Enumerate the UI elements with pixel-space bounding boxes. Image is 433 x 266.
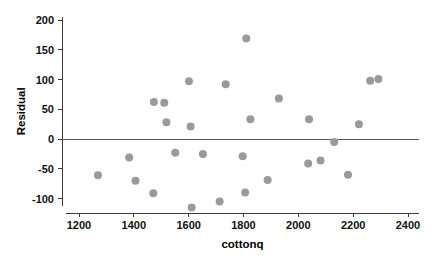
x-tick-label: 2000 (286, 219, 310, 231)
scatter-point (242, 34, 250, 42)
scatter-point (187, 123, 195, 131)
scatter-point (216, 197, 224, 205)
y-tick-label: 200 (36, 14, 54, 26)
scatter-point (366, 77, 374, 85)
scatter-point (344, 171, 352, 179)
scatter-point (246, 115, 254, 123)
scatter-point (264, 176, 272, 184)
scatter-point (188, 203, 196, 211)
scatter-point (149, 189, 157, 197)
y-tick-label: 50 (42, 103, 54, 115)
scatter-point (162, 118, 170, 126)
scatter-point (317, 156, 325, 164)
y-tick-label: 100 (36, 74, 54, 86)
scatter-point (241, 189, 249, 197)
y-axis: 200150100500-50-100 (32, 14, 62, 206)
scatter-point (305, 115, 313, 123)
scatter-point (199, 150, 207, 158)
scatter-point (355, 120, 363, 128)
scatter-point (171, 149, 179, 157)
x-tick-label: 1400 (122, 219, 146, 231)
scatter-point (222, 80, 230, 88)
x-tick-label: 1200 (67, 219, 91, 231)
scatter-point (125, 153, 133, 161)
scatter-point (185, 77, 193, 85)
scatter-point (239, 152, 247, 160)
x-tick-label: 2200 (341, 219, 365, 231)
x-tick-label: 1600 (176, 219, 200, 231)
plot-canvas: 200150100500-50-100 12001400160018002000… (0, 0, 433, 266)
scatter-point (94, 171, 102, 179)
x-axis: 1200140016001800200022002400 (66, 213, 420, 231)
scatter-point (150, 98, 158, 106)
x-tick-label: 2400 (396, 219, 420, 231)
y-tick-label: -50 (38, 163, 54, 175)
y-tick-label: 150 (36, 44, 54, 56)
x-tick-label: 1800 (231, 219, 255, 231)
scatter-point (160, 99, 168, 107)
x-axis-title: cottonq (221, 238, 263, 250)
y-tick-label: 0 (48, 133, 54, 145)
y-axis-title: Residual (15, 87, 27, 135)
scatter-point (374, 75, 382, 83)
scatter-point (275, 95, 283, 103)
residual-scatter-plot: 200150100500-50-100 12001400160018002000… (0, 0, 433, 266)
data-point-markers (94, 34, 382, 211)
scatter-point (330, 138, 338, 146)
scatter-point (131, 177, 139, 185)
y-tick-label: -100 (32, 193, 54, 205)
scatter-point (304, 159, 312, 167)
